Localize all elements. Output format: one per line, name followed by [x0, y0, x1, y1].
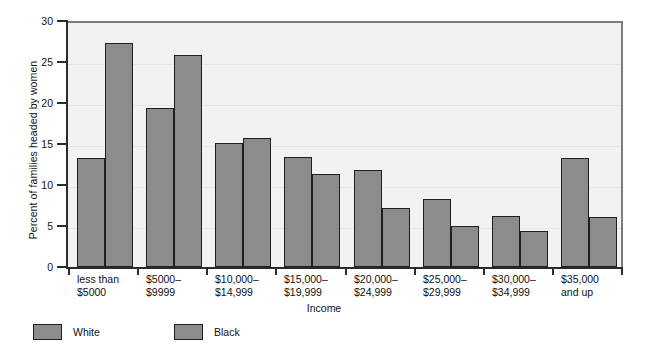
x-tick-mark	[552, 269, 554, 275]
y-tick-mark	[57, 184, 66, 186]
legend-item-white[interactable]: White	[33, 322, 100, 342]
x-tick-mark	[137, 269, 139, 275]
legend-label: White	[73, 326, 100, 338]
x-tick-mark	[414, 269, 416, 275]
x-category-label: $5000– $9999	[146, 273, 181, 299]
x-tick-mark	[68, 269, 70, 275]
x-category-label: $25,000– $29,999	[423, 273, 467, 299]
y-tick-label: 30	[20, 16, 53, 26]
x-tick-mark	[275, 269, 277, 275]
bar-white-1	[146, 108, 174, 267]
x-category-label: $15,000– $19,999	[284, 273, 328, 299]
x-category-label: $30,000– $34,999	[492, 273, 536, 299]
bar-white-5	[423, 199, 451, 267]
y-tick-label: 10	[20, 180, 53, 190]
bar-white-2	[215, 143, 243, 267]
bar-black-4	[382, 208, 410, 267]
bar-white-7	[561, 158, 589, 267]
gridline	[68, 64, 621, 65]
y-axis-line	[66, 20, 68, 269]
x-tick-mark	[483, 269, 485, 275]
bar-white-3	[284, 157, 312, 267]
gridline	[68, 105, 621, 106]
x-tick-mark	[206, 269, 208, 275]
bar-black-6	[520, 231, 548, 267]
x-category-label: $35,000 and up	[561, 273, 599, 299]
legend-label: Black	[214, 326, 240, 338]
bar-black-7	[589, 217, 617, 267]
bar-white-4	[354, 170, 382, 267]
y-tick-label: 0	[20, 262, 53, 272]
x-tick-mark	[621, 269, 623, 275]
bar-white-0	[77, 158, 105, 267]
legend-item-black[interactable]: Black	[174, 322, 240, 342]
legend-swatch-white	[33, 324, 62, 340]
y-tick-mark	[57, 225, 66, 227]
x-category-label: less than $5000	[77, 273, 119, 299]
bar-black-0	[105, 43, 133, 267]
y-tick-mark	[57, 61, 66, 63]
x-category-label: $20,000– $24,999	[354, 273, 398, 299]
bar-black-5	[451, 226, 479, 267]
bar-chart-figure: Percent of families headed by women 0510…	[0, 0, 648, 358]
y-tick-label: 25	[20, 57, 53, 67]
y-tick-mark	[57, 20, 66, 22]
bar-white-6	[492, 216, 520, 267]
y-tick-label: 20	[20, 98, 53, 108]
y-tick-mark	[57, 102, 66, 104]
bar-black-2	[243, 138, 271, 267]
x-tick-mark	[345, 269, 347, 275]
bar-black-1	[174, 55, 202, 267]
legend-swatch-black	[174, 324, 203, 340]
y-tick-mark	[57, 143, 66, 145]
x-axis-title: Income	[0, 302, 648, 314]
x-category-label: $10,000– $14,999	[215, 273, 259, 299]
bar-black-3	[312, 174, 340, 267]
y-tick-label: 5	[20, 221, 53, 231]
y-tick-mark	[57, 266, 66, 268]
y-tick-label: 15	[20, 139, 53, 149]
